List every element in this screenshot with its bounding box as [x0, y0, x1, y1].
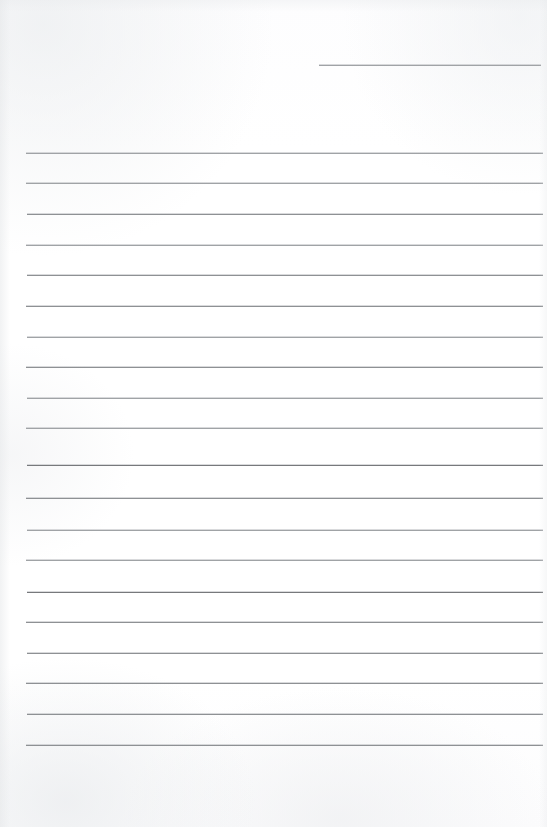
ruled-line-11 — [27, 465, 543, 466]
ruled-line-4 — [26, 245, 543, 246]
ruled-line-16 — [26, 622, 543, 623]
ruled-line-8 — [26, 367, 543, 368]
header-rule-line — [319, 65, 541, 66]
ruled-line-14 — [26, 560, 543, 561]
ruled-line-10 — [26, 428, 543, 429]
ruled-line-1 — [26, 153, 543, 154]
ruled-line-2 — [26, 183, 543, 184]
scan-edge-shading — [0, 0, 547, 827]
ruled-line-19 — [27, 714, 543, 715]
ruled-line-9 — [27, 398, 543, 399]
ruled-line-3 — [27, 214, 543, 215]
ruled-line-18 — [26, 683, 543, 684]
ruled-line-17 — [27, 653, 543, 654]
ruled-line-15 — [27, 592, 543, 593]
ruled-line-20 — [26, 745, 543, 746]
scanned-page — [0, 0, 547, 827]
ruled-line-7 — [27, 337, 543, 338]
ruled-line-6 — [26, 306, 543, 307]
ruled-line-12 — [26, 498, 543, 499]
ruled-line-13 — [27, 530, 543, 531]
ruled-line-5 — [27, 275, 543, 276]
paper-surface — [0, 0, 547, 827]
